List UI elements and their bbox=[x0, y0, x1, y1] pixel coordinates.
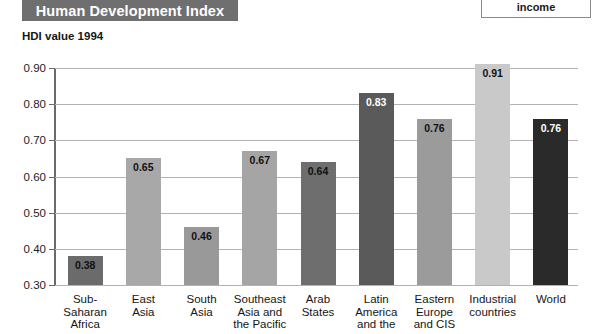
x-axis-category-line: Eastern bbox=[405, 293, 463, 306]
y-axis-tick bbox=[49, 177, 55, 178]
bar-value-label: 0.65 bbox=[126, 162, 161, 173]
y-axis-tick bbox=[49, 285, 55, 286]
bar-value-label: 0.91 bbox=[475, 68, 510, 79]
bar-value-label: 0.38 bbox=[68, 260, 103, 271]
y-axis-label: 0.50 bbox=[24, 207, 46, 219]
bar-value-label: 0.76 bbox=[417, 123, 452, 134]
x-axis-category-label: LatinAmericaand the bbox=[347, 293, 405, 331]
bar-fill bbox=[359, 93, 394, 285]
x-axis-category-label: Sub-SaharanAfrica bbox=[56, 293, 114, 331]
x-axis-category-line: and CIS bbox=[405, 318, 463, 331]
bar: 0.65 bbox=[126, 158, 161, 285]
bar-fill bbox=[301, 162, 336, 285]
bar-fill bbox=[475, 64, 510, 285]
x-axis-category-line: Asia bbox=[114, 306, 172, 319]
bar-value-label: 0.83 bbox=[359, 97, 394, 108]
x-axis-category-line: Europe bbox=[405, 306, 463, 319]
x-axis-category-label: Industrialcountries bbox=[464, 293, 522, 318]
axis-caption: HDI value 1994 bbox=[22, 30, 103, 42]
x-axis-category-line: America bbox=[347, 306, 405, 319]
x-axis-category-label: EasternEuropeand CIS bbox=[405, 293, 463, 331]
x-axis-category-label: SouthAsia bbox=[172, 293, 230, 318]
x-axis-category-line: countries bbox=[464, 306, 522, 319]
legend-box: income bbox=[481, 0, 591, 18]
x-axis-category-line: South bbox=[172, 293, 230, 306]
bar-fill bbox=[533, 119, 568, 285]
x-axis-category-line: World bbox=[522, 293, 580, 306]
x-axis-category-line: Southeast bbox=[231, 293, 289, 306]
plot-area: 0.900.800.700.600.500.400.30 0.380.650.4… bbox=[54, 62, 578, 291]
bar-fill bbox=[417, 119, 452, 285]
y-axis-tick bbox=[49, 213, 55, 214]
bar: 0.67 bbox=[242, 151, 277, 285]
bar: 0.76 bbox=[533, 119, 568, 285]
x-axis-category-line: East bbox=[114, 293, 172, 306]
y-axis-label: 0.60 bbox=[24, 171, 46, 183]
bar: 0.91 bbox=[475, 64, 510, 285]
y-axis-label: 0.40 bbox=[24, 243, 46, 255]
x-axis-category-label: World bbox=[522, 293, 580, 306]
x-axis-category-line: Arab bbox=[289, 293, 347, 306]
x-axis-category-line: Sub- bbox=[56, 293, 114, 306]
x-axis-category-line: the Pacific bbox=[231, 318, 289, 331]
legend-label: income bbox=[482, 1, 590, 13]
x-axis-category-label: ArabStates bbox=[289, 293, 347, 318]
bar-value-label: 0.76 bbox=[533, 123, 568, 134]
y-axis-label: 0.90 bbox=[24, 62, 46, 74]
x-axis-category-line: Latin bbox=[347, 293, 405, 306]
bar-fill bbox=[242, 151, 277, 285]
y-axis-tick bbox=[49, 104, 55, 105]
bar-value-label: 0.46 bbox=[184, 231, 219, 242]
x-axis-category-line: and the bbox=[347, 318, 405, 331]
bar: 0.83 bbox=[359, 93, 394, 285]
bar-value-label: 0.67 bbox=[242, 155, 277, 166]
bar: 0.46 bbox=[184, 227, 219, 285]
y-axis-tick bbox=[49, 249, 55, 250]
bar-fill bbox=[126, 158, 161, 285]
chart-page: Human Development Index income HDI value… bbox=[0, 0, 599, 334]
bar: 0.76 bbox=[417, 119, 452, 285]
y-axis-label: 0.30 bbox=[24, 279, 46, 291]
page-title: Human Development Index bbox=[36, 3, 224, 19]
x-axis-category-line: Asia and bbox=[231, 306, 289, 319]
x-axis-category-line: Africa bbox=[56, 318, 114, 331]
chart-title-band: Human Development Index bbox=[22, 0, 238, 21]
y-axis-tick bbox=[49, 68, 55, 69]
x-axis-category-line: States bbox=[289, 306, 347, 319]
x-axis-category-label: EastAsia bbox=[114, 293, 172, 318]
x-axis-category-line: Asia bbox=[172, 306, 230, 319]
y-axis-label: 0.70 bbox=[24, 134, 46, 146]
x-axis-category-line: Industrial bbox=[464, 293, 522, 306]
y-axis-label: 0.80 bbox=[24, 98, 46, 110]
bar: 0.64 bbox=[301, 162, 336, 285]
x-axis-category-label: SoutheastAsia andthe Pacific bbox=[231, 293, 289, 331]
bar-value-label: 0.64 bbox=[301, 166, 336, 177]
y-axis-tick bbox=[49, 140, 55, 141]
gridline bbox=[54, 285, 578, 286]
x-axis-category-line: Saharan bbox=[56, 306, 114, 319]
bar: 0.38 bbox=[68, 256, 103, 285]
